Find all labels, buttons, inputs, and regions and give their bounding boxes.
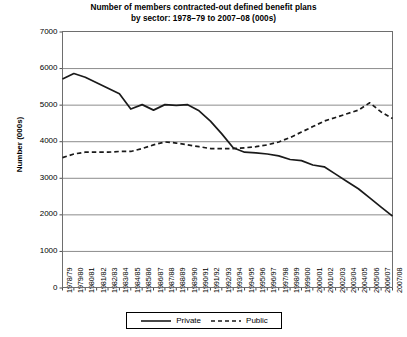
chart-legend: Private Public xyxy=(126,312,282,329)
plot-frame xyxy=(63,32,393,288)
legend-swatch-private-line xyxy=(140,317,172,325)
chart-container: Number of members contracted-out defined… xyxy=(0,0,407,337)
data-series xyxy=(63,74,393,217)
series-line-public xyxy=(63,103,393,158)
gridlines xyxy=(60,32,393,291)
legend-item-private: Private xyxy=(140,316,201,325)
plot-area xyxy=(0,0,407,337)
legend-swatch-public-line xyxy=(210,317,242,325)
legend-item-public: Public xyxy=(210,316,268,325)
legend-label-public: Public xyxy=(246,316,268,325)
series-line-private xyxy=(63,74,393,217)
legend-label-private: Private xyxy=(176,316,201,325)
